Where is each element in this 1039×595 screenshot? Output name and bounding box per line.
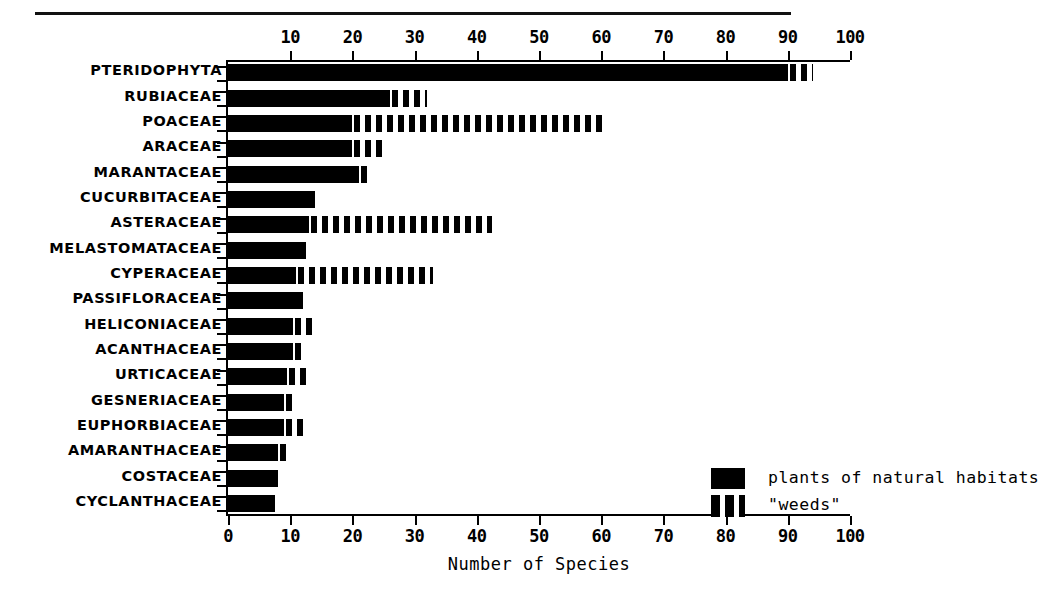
tick-left-2a [217, 116, 226, 118]
tick-label-top-90: 90 [778, 27, 797, 47]
tick-left-12a [217, 370, 226, 372]
tick-left-3b [217, 156, 226, 158]
bar-segment-natural [228, 368, 287, 385]
tick-label-bottom-60: 60 [591, 526, 610, 546]
bar-row [228, 394, 850, 411]
tick-left-10a [217, 319, 226, 321]
bar-row [228, 115, 850, 132]
category-label-rubiaceae: RUBIACEAE [124, 88, 222, 104]
tick-label-bottom-50: 50 [529, 526, 548, 546]
tick-label-top-40: 40 [467, 27, 486, 47]
category-label-pteridophyta: PTERIDOPHYTA [90, 62, 222, 78]
bar-row [228, 318, 850, 335]
bar-row [228, 419, 850, 436]
bar-segment-weeds [392, 90, 427, 107]
tick-top-30 [415, 51, 417, 60]
bar-row [228, 343, 850, 360]
bar-row [228, 267, 850, 284]
category-label-gesneriaceae: GESNERIACEAE [91, 392, 222, 408]
bar-segment-natural [228, 343, 293, 360]
tick-label-top-70: 70 [654, 27, 673, 47]
category-label-amaranthaceae: AMARANTHACEAE [68, 442, 222, 458]
tick-top-80 [726, 51, 728, 60]
tick-top-90 [788, 51, 790, 60]
tick-top-70 [663, 51, 665, 60]
bar-segment-weeds [295, 343, 305, 360]
bar-segment-natural [228, 166, 359, 183]
tick-left-9b [217, 308, 226, 310]
category-label-euphorbiaceae: EUPHORBIACEAE [77, 417, 222, 433]
bar-segment-natural [228, 292, 303, 309]
bar-row [228, 444, 850, 461]
tick-left-6a [217, 218, 226, 220]
tick-left-17b [217, 510, 226, 512]
tick-top-50 [539, 51, 541, 60]
tick-left-15b [217, 460, 226, 462]
top-divider-rule [35, 12, 791, 15]
bar-segment-natural [228, 90, 390, 107]
bar-segment-natural [228, 216, 309, 233]
tick-left-1b [217, 105, 226, 107]
tick-left-7b [217, 257, 226, 259]
x-axis-title: Number of Species [228, 554, 850, 574]
bar-segment-weeds [354, 140, 383, 157]
tick-left-17a [217, 496, 226, 498]
bar-segment-weeds [298, 267, 433, 284]
tick-top-20 [352, 51, 354, 60]
category-label-marantaceae: MARANTACEAE [94, 164, 222, 180]
tick-label-bottom-90: 90 [778, 526, 797, 546]
legend-label-natural: plants of natural habitats [768, 468, 1039, 487]
tick-left-14b [217, 434, 226, 436]
category-axis-labels: PTERIDOPHYTARUBIACEAEPOACEAEARACEAEMARAN… [0, 60, 222, 516]
tick-left-11b [217, 358, 226, 360]
tick-label-top-100: 100 [835, 27, 864, 47]
bar-segment-natural [228, 419, 284, 436]
bar-segment-natural [228, 140, 352, 157]
category-label-cyclanthaceae: CYCLANTHACEAE [75, 493, 222, 509]
axis-top-line [228, 60, 850, 62]
bar-segment-weeds [790, 64, 813, 81]
tick-left-3a [217, 142, 226, 144]
tick-left-13a [217, 395, 226, 397]
legend-swatch-solid-icon [711, 468, 745, 489]
tick-bottom-10 [290, 516, 292, 525]
bar-row [228, 166, 850, 183]
bar-segment-natural [228, 115, 352, 132]
tick-left-11a [217, 344, 226, 346]
tick-left-9a [217, 294, 226, 296]
bar-row [228, 470, 850, 487]
tick-left-4b [217, 181, 226, 183]
tick-bottom-80 [726, 516, 728, 525]
tick-left-12b [217, 384, 226, 386]
tick-bottom-60 [601, 516, 603, 525]
legend-label-weeds: "weeds" [768, 495, 841, 514]
bar-segment-natural [228, 394, 284, 411]
tick-left-5a [217, 192, 226, 194]
tick-label-bottom-20: 20 [343, 526, 362, 546]
tick-left-16b [217, 485, 226, 487]
tick-left-14a [217, 420, 226, 422]
tick-label-bottom-70: 70 [654, 526, 673, 546]
tick-left-5b [217, 206, 226, 208]
tick-label-top-10: 10 [280, 27, 299, 47]
category-label-costaceae: COSTACEAE [122, 468, 222, 484]
tick-label-bottom-100: 100 [835, 526, 864, 546]
tick-left-4a [217, 167, 226, 169]
bar-segment-natural [228, 318, 293, 335]
tick-left-2b [217, 130, 226, 132]
tick-left-0b [217, 80, 226, 82]
tick-bottom-40 [477, 516, 479, 525]
tick-top-60 [601, 51, 603, 60]
bar-segment-weeds [295, 318, 312, 335]
tick-label-bottom-10: 10 [280, 526, 299, 546]
bar-row [228, 242, 850, 259]
bar-segment-weeds [354, 115, 607, 132]
tick-label-top-30: 30 [405, 27, 424, 47]
tick-label-top-20: 20 [343, 27, 362, 47]
bar-row [228, 64, 850, 81]
legend-swatch-dashed-icon [711, 495, 745, 517]
category-label-cucurbitaceae: CUCURBITACEAE [80, 189, 222, 205]
tick-label-top-60: 60 [591, 27, 610, 47]
tick-label-bottom-30: 30 [405, 526, 424, 546]
